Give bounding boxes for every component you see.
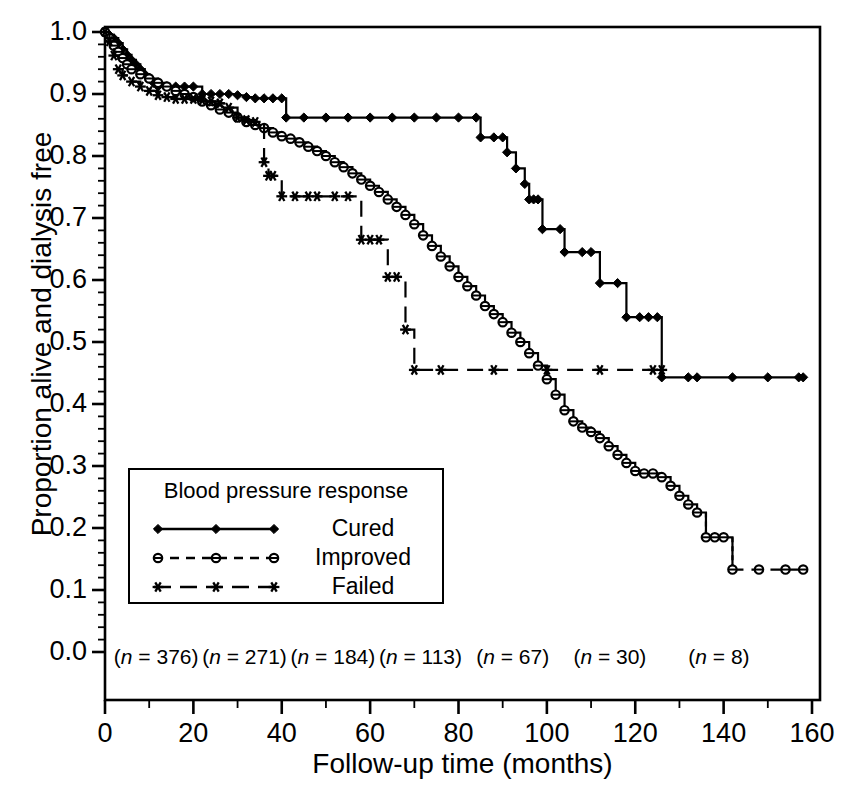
legend-key-improved — [148, 543, 284, 572]
x-tick-label: 140 — [689, 720, 759, 747]
x-tick-label: 80 — [424, 720, 494, 747]
legend-label: Improved — [290, 544, 436, 571]
at-risk-annotation-row: (n = 376)(n = 271)(n = 184)(n = 113)(n =… — [105, 646, 820, 680]
legend-entry: Failed — [130, 572, 442, 601]
y-tick-label: 0.7 — [13, 204, 87, 231]
x-axis-label: Follow-up time (months) — [105, 748, 820, 780]
legend-key-cured — [148, 514, 284, 543]
at-risk-label: (n = 184) — [291, 646, 376, 667]
legend-key-failed — [148, 572, 284, 601]
legend-entry: Improved — [130, 543, 442, 572]
y-tick-label: 0.6 — [13, 266, 87, 293]
y-tick-label: 0.1 — [13, 576, 87, 603]
x-tick-label: 60 — [335, 720, 405, 747]
figure-kaplan-meier-survival: Proportion alive and dialysis free Follo… — [0, 0, 844, 796]
legend: Blood pressure response CuredImprovedFai… — [128, 468, 444, 604]
legend-label: Cured — [290, 515, 436, 542]
at-risk-label: (n = 8) — [688, 646, 749, 667]
legend-entries: CuredImprovedFailed — [130, 514, 442, 601]
y-tick-label: 0.0 — [13, 638, 87, 665]
legend-label: Failed — [290, 573, 436, 600]
y-tick-label: 1.0 — [13, 18, 87, 45]
x-tick-label: 160 — [777, 720, 844, 747]
x-axis-ticks — [105, 700, 812, 714]
y-axis-ticks — [92, 32, 105, 652]
legend-entry: Cured — [130, 514, 442, 543]
x-axis-label-text: Follow-up time (months) — [312, 748, 612, 780]
x-tick-label: 40 — [247, 720, 317, 747]
at-risk-label: (n = 271) — [202, 646, 287, 667]
x-tick-label: 20 — [158, 720, 228, 747]
y-tick-label: 0.4 — [13, 390, 87, 417]
series-cured — [100, 27, 807, 382]
x-tick-label: 0 — [70, 720, 140, 747]
y-tick-label: 0.5 — [13, 328, 87, 355]
y-tick-label: 0.2 — [13, 514, 87, 541]
y-tick-label: 0.8 — [13, 142, 87, 169]
legend-title: Blood pressure response — [130, 478, 442, 504]
at-risk-label: (n = 67) — [476, 646, 549, 667]
y-tick-label: 0.3 — [13, 452, 87, 479]
x-tick-label: 120 — [600, 720, 670, 747]
at-risk-label: (n = 113) — [379, 646, 462, 667]
series-markers-cured — [100, 27, 807, 382]
at-risk-label: (n = 376) — [114, 646, 199, 667]
x-tick-label: 100 — [512, 720, 582, 747]
at-risk-label: (n = 30) — [573, 646, 646, 667]
y-tick-label: 0.9 — [13, 80, 87, 107]
